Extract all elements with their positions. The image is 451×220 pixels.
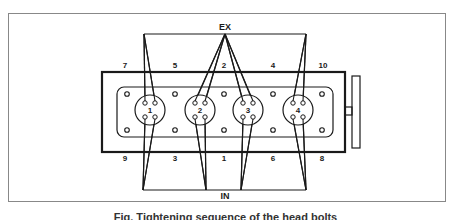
bolt-sequence-number: 9 [123,154,128,163]
bolt-hole-icon [125,92,130,97]
bolt-sequence-number: 5 [173,61,178,70]
exhaust-label: EX [219,22,231,32]
cylinder-label: 2 [198,106,203,115]
flywheel [352,76,360,148]
bolt-hole-icon [173,92,178,97]
bolt-hole-icon [222,128,227,133]
intake-label: IN [221,191,230,201]
bolt-sequence-number: 4 [271,61,276,70]
bolt-sequence-number: 8 [320,154,325,163]
cylinder-label: 4 [296,106,301,115]
bolt-hole-icon [271,92,276,97]
bolt-hole-icon [320,92,325,97]
manifold-overlay [143,34,306,190]
figure-caption: Fig. Tightening sequence of the head bol… [0,211,451,220]
bolt-hole-icon [222,92,227,97]
engine-head-diagram: EX [0,0,451,220]
cylinder-label: 1 [148,106,153,115]
cylinder-label: 3 [246,106,251,115]
bolt-hole-icon [320,128,325,133]
bolt-sequence-number: 1 [222,154,227,163]
bolt-hole-icon [125,128,130,133]
bolt-sequence-number: 10 [319,61,328,70]
bolt-sequence-number: 3 [173,154,178,163]
bolt-hole-icon [173,128,178,133]
bolt-sequence-number: 2 [222,61,227,70]
bolt-sequence-number: 6 [271,154,276,163]
bolt-hole-icon [271,128,276,133]
bolt-sequence-number: 7 [123,61,128,70]
